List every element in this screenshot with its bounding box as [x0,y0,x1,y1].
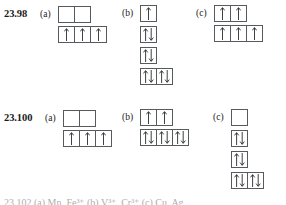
spin-arrows-up [141,6,156,21]
spin-arrows-paired [232,173,247,188]
spin-arrows-paired [141,27,156,42]
orbital-box[interactable] [58,6,75,23]
orbital-box[interactable] [140,109,157,126]
orbital-box[interactable] [90,26,107,43]
orbital-box[interactable] [214,5,231,22]
problem-23-98: 23.98 (a) [0,0,286,100]
orbital-row [140,26,157,43]
orbital-box[interactable] [230,5,247,22]
problem-23-100: 23.100 (a) [0,104,286,200]
orbital-box[interactable] [74,6,91,23]
problem-number: 23.100 [4,112,32,123]
orbital-row [140,5,157,22]
spin-arrows-paired [248,173,263,188]
orbital-row [140,129,189,146]
problem-label-23-98: 23.98 [4,9,27,20]
orbital-row [231,130,248,147]
orbital-row [214,5,247,22]
orbital-box[interactable] [231,109,248,126]
spin-arrows-up [80,131,95,146]
orbital-box[interactable] [140,5,157,22]
problem-number: 23.98 [4,8,27,19]
orbital-row [214,25,263,42]
orbital-box[interactable] [63,130,80,147]
orbital-box[interactable] [63,110,80,127]
spin-arrows-up [215,6,230,21]
orbital-box[interactable] [156,109,173,126]
spin-arrows-up [231,6,246,21]
spin-arrows-up [247,26,262,41]
orbital-box[interactable] [140,26,157,43]
orbital-box[interactable] [247,172,264,189]
spin-arrows-up [91,27,106,42]
spin-arrows-up [64,131,79,146]
spin-arrows-up [157,110,172,125]
orbital-box[interactable] [79,130,96,147]
spin-arrows-up [59,27,74,42]
orbital-box[interactable] [79,110,96,127]
orbital-box[interactable] [58,26,75,43]
orbital-row [63,110,96,127]
part-tag: (b) [122,9,133,19]
spin-arrows-paired [157,130,172,145]
part-tag: (b) [122,113,133,123]
spin-arrows-up [141,110,156,125]
spin-arrows-up [215,26,230,41]
orbital-box[interactable] [140,129,157,146]
spin-arrows-up [75,27,90,42]
orbital-row [231,151,248,168]
spin-arrows-up [231,26,246,41]
cut-off-footer-text: 23.102 (a) Mn, Fe³⁺ (b) V³⁺, Cr³⁺ (c) Cu… [4,198,286,205]
orbital-row [63,130,112,147]
orbital-box[interactable] [74,26,91,43]
orbital-box[interactable] [231,130,248,147]
part-tag: (a) [40,10,51,20]
orbital-row [231,172,264,189]
spin-arrows-paired [157,69,172,84]
orbital-box[interactable] [140,47,157,64]
orbital-row [140,109,173,126]
spin-arrows-paired [173,130,188,145]
orbital-box[interactable] [95,130,112,147]
orbital-box[interactable] [230,25,247,42]
spin-arrows-paired [141,69,156,84]
orbital-row [140,68,173,85]
part-tag: (c) [196,9,207,19]
spin-arrows-paired [141,130,156,145]
spin-arrows-up [96,131,111,146]
orbital-box[interactable] [156,68,173,85]
part-tag: (a) [45,114,56,124]
orbital-box[interactable] [156,129,173,146]
orbital-box[interactable] [172,129,189,146]
orbital-box[interactable] [214,25,231,42]
spin-arrows-paired [232,152,247,167]
spin-arrows-paired [232,131,247,146]
orbital-box[interactable] [231,151,248,168]
problem-label-23-100: 23.100 [4,113,32,124]
orbital-box[interactable] [246,25,263,42]
orbital-row [140,47,157,64]
orbital-row [58,6,91,23]
orbital-row [58,26,107,43]
orbital-box[interactable] [140,68,157,85]
part-tag: (c) [213,113,224,123]
orbital-row [231,109,248,126]
orbital-box[interactable] [231,172,248,189]
spin-arrows-paired [141,48,156,63]
